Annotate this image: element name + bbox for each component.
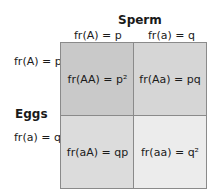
cell-AA: fr(AA) = p² (61, 43, 134, 116)
row-header-eggs: Eggs (15, 107, 48, 121)
punnett-grid: fr(AA) = p² fr(Aa) = pq fr(aA) = qp fr(a… (60, 42, 207, 189)
row-label-A: fr(A) = p (14, 55, 62, 68)
cell-aA: fr(aA) = qp (61, 116, 134, 188)
column-label-a: fr(a) = q (148, 29, 195, 42)
cell-AA-label: fr(AA) = p² (68, 73, 128, 86)
horizontal-divider (61, 115, 206, 116)
cell-aa: fr(aa) = q² (134, 116, 206, 188)
row-label-a: fr(a) = q (14, 131, 61, 144)
cell-Aa-label: fr(Aa) = pq (139, 73, 200, 86)
cell-Aa: fr(Aa) = pq (134, 43, 206, 116)
column-label-A: fr(A) = p (74, 29, 122, 42)
cell-aa-label: fr(aa) = q² (141, 146, 199, 159)
cell-aA-label: fr(aA) = qp (67, 146, 128, 159)
column-header-sperm: Sperm (118, 13, 162, 27)
